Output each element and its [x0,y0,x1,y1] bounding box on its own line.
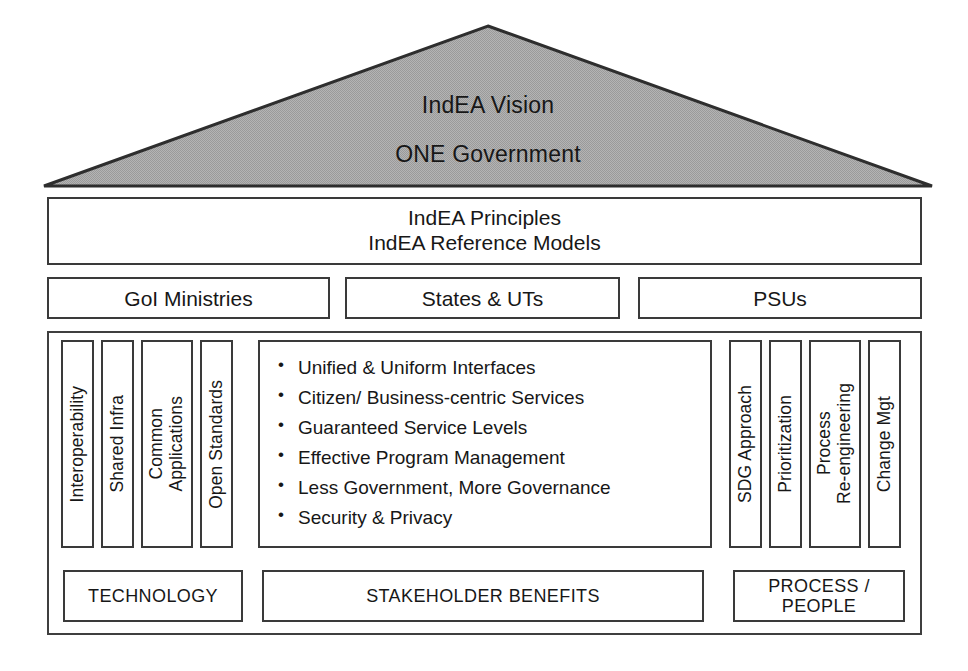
benefit-item: Guaranteed Service Levels [276,413,710,443]
pillar-interoperability: Interoperability [61,340,94,548]
principles-line-1: IndEA Principles [408,206,561,231]
principles-band: IndEA Principles IndEA Reference Models [47,197,922,265]
category-label: PROCESS / PEOPLE [768,576,870,616]
benefit-item: Citizen/ Business-centric Services [276,383,710,413]
benefits-panel: Unified & Uniform Interfaces Citizen/ Bu… [258,340,712,548]
category-box-stakeholder-benefits: STAKEHOLDER BENEFITS [262,570,704,622]
benefit-item: Effective Program Management [276,443,710,473]
pillar-sdg-approach: SDG Approach [729,340,762,548]
principles-line-2: IndEA Reference Models [368,231,600,256]
category-label: STAKEHOLDER BENEFITS [366,586,600,606]
benefit-item: Security & Privacy [276,503,710,533]
pillar-process-re-engineering: Process Re-engineering [809,340,861,548]
org-label: States & UTs [422,288,543,309]
pillar-label: Interoperability [68,386,88,502]
benefit-item: Less Government, More Governance [276,473,710,503]
pillar-prioritization: Prioritization [769,340,802,548]
pillar-label: Process Re-engineering [815,383,854,504]
pillar-label: Open Standards [207,380,227,509]
category-box-technology: TECHNOLOGY [63,570,243,622]
org-box-psus: PSUs [638,277,922,319]
org-box-states-uts: States & UTs [345,277,620,319]
org-label: GoI Ministries [124,288,252,309]
pillar-shared-infra: Shared Infra [101,340,134,548]
benefits-list: Unified & Uniform Interfaces Citizen/ Bu… [276,353,710,533]
pillar-label: Prioritization [776,395,796,493]
vision-roof: IndEA Vision ONE Government [40,22,936,190]
category-label: TECHNOLOGY [88,586,218,606]
diagram-canvas: IndEA Vision ONE Government IndEA Princi… [0,0,968,671]
benefit-item: Unified & Uniform Interfaces [276,353,710,383]
pillar-label: SDG Approach [736,385,756,503]
pillar-change-mgt: Change Mgt [868,340,901,548]
org-label: PSUs [753,288,807,309]
pillar-label: Change Mgt [875,396,895,492]
category-box-process-people: PROCESS / PEOPLE [733,570,905,622]
pillar-label: Common Applications [147,396,186,492]
pillar-open-standards: Open Standards [200,340,233,548]
pillar-common-applications: Common Applications [141,340,193,548]
org-box-goi-ministries: GoI Ministries [47,277,330,319]
pillar-label: Shared Infra [108,395,128,493]
roof-triangle-shape [40,22,936,190]
